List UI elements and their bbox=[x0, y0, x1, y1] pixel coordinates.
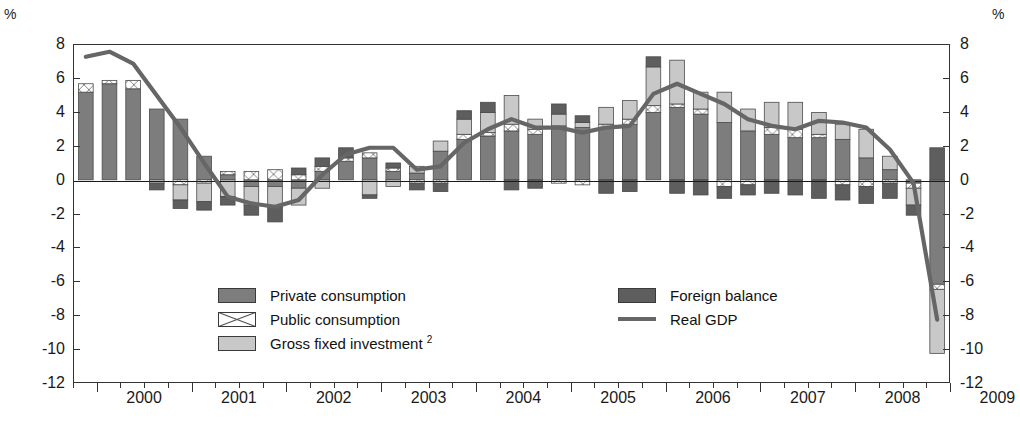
legend-label-real-gdp: Real GDP bbox=[670, 312, 738, 327]
legend-swatch-real-gdp bbox=[618, 317, 656, 321]
x-axis-year-label: 2001 bbox=[204, 390, 274, 406]
x-axis-tick-mark bbox=[666, 383, 667, 392]
y-axis-tick-mark bbox=[73, 146, 80, 147]
y-axis-tick-mark bbox=[943, 247, 950, 248]
real-gdp-path bbox=[86, 52, 937, 320]
x-axis-tick-mark bbox=[571, 383, 572, 392]
x-axis-tick-mark bbox=[381, 383, 382, 392]
x-axis-year-label: 2008 bbox=[868, 390, 938, 406]
x-axis-year-label: 2003 bbox=[394, 390, 464, 406]
x-axis-year-label: 2007 bbox=[773, 390, 843, 406]
y-axis-tick-label-right: -10 bbox=[960, 341, 1012, 357]
y-axis-tick-label-left: 0 bbox=[13, 172, 65, 188]
y-axis-tick-mark bbox=[943, 146, 950, 147]
y-axis-tick-mark bbox=[73, 247, 80, 248]
x-axis-tick-mark bbox=[429, 383, 430, 388]
legend-item-foreign-balance: Foreign balance bbox=[618, 283, 778, 307]
x-axis-year-label: 2004 bbox=[488, 390, 558, 406]
y-axis-tick-label-right: -6 bbox=[960, 273, 1012, 289]
legend-column-right: Foreign balance Real GDP bbox=[618, 283, 778, 331]
y-axis-tick-label-right: 8 bbox=[960, 36, 1012, 52]
x-axis-tick-mark bbox=[642, 383, 643, 388]
y-axis-tick-mark bbox=[943, 78, 950, 79]
legend-label-private-consumption: Private consumption bbox=[270, 288, 406, 303]
y-axis-unit-right: % bbox=[992, 6, 1004, 22]
x-axis-tick-mark bbox=[808, 383, 809, 388]
chart-figure: % % 86420-2-4-6-8-10-12 86420-2-4-6-8-10… bbox=[0, 0, 1020, 428]
legend-label-gross-fixed-investment: Gross fixed investment 2 bbox=[270, 335, 432, 351]
y-axis-tick-label-right: 0 bbox=[960, 172, 1012, 188]
x-axis-tick-mark bbox=[120, 383, 121, 388]
legend-swatch-private-consumption bbox=[218, 288, 256, 303]
y-axis-tick-mark bbox=[73, 281, 80, 282]
y-axis-tick-label-right: 6 bbox=[960, 70, 1012, 86]
x-axis-tick-mark bbox=[737, 383, 738, 388]
y-axis-tick-label-right: 2 bbox=[960, 138, 1012, 154]
x-axis-tick-mark bbox=[784, 383, 785, 388]
legend-label-public-consumption: Public consumption bbox=[270, 312, 400, 327]
x-axis-year-label: 2006 bbox=[678, 390, 748, 406]
y-axis-tick-label-left: 4 bbox=[13, 104, 65, 120]
x-axis-tick-mark bbox=[73, 383, 74, 388]
x-axis-tick-mark bbox=[192, 383, 193, 392]
y-axis-tick-label-left: -6 bbox=[13, 273, 65, 289]
x-axis-year-label: 2000 bbox=[109, 390, 179, 406]
x-axis-tick-mark bbox=[476, 383, 477, 392]
x-axis-tick-mark bbox=[215, 383, 216, 388]
y-axis-tick-label-left: -2 bbox=[13, 206, 65, 222]
y-axis-tick-label-left: -10 bbox=[13, 341, 65, 357]
x-axis-tick-mark bbox=[855, 383, 856, 392]
x-axis-year-label: 2005 bbox=[583, 390, 653, 406]
legend-label-gross-fixed-investment-text: Gross fixed investment bbox=[270, 335, 423, 352]
y-axis-tick-mark bbox=[73, 315, 80, 316]
legend-item-public-consumption: Public consumption bbox=[218, 307, 432, 331]
x-axis-tick-mark bbox=[547, 383, 548, 388]
x-axis-tick-mark bbox=[357, 383, 358, 388]
y-axis-tick-label-left: 8 bbox=[13, 36, 65, 52]
x-axis-tick-mark bbox=[713, 383, 714, 388]
y-axis-tick-mark bbox=[943, 112, 950, 113]
y-axis-tick-mark bbox=[73, 349, 80, 350]
legend-column-left: Private consumption Public consumption G… bbox=[218, 283, 432, 355]
y-axis-tick-label-right: -2 bbox=[960, 206, 1012, 222]
y-axis-tick-label-right: -8 bbox=[960, 307, 1012, 323]
x-axis-tick-mark bbox=[903, 383, 904, 388]
chart-legend: Private consumption Public consumption G… bbox=[218, 283, 858, 361]
y-axis-tick-label-left: 6 bbox=[13, 70, 65, 86]
y-axis-tick-mark bbox=[73, 78, 80, 79]
x-axis-tick-mark bbox=[500, 383, 501, 388]
legend-swatch-gross-fixed-investment bbox=[218, 336, 256, 351]
y-axis-unit-left: % bbox=[4, 6, 16, 22]
legend-label-foreign-balance: Foreign balance bbox=[670, 288, 778, 303]
x-axis-tick-mark bbox=[926, 383, 927, 388]
legend-item-gross-fixed-investment: Gross fixed investment 2 bbox=[218, 331, 432, 355]
x-axis-tick-mark bbox=[618, 383, 619, 388]
legend-footnote-marker: 2 bbox=[427, 334, 433, 345]
y-axis-tick-label-left: -8 bbox=[13, 307, 65, 323]
legend-swatch-foreign-balance bbox=[618, 288, 656, 303]
x-axis-tick-mark bbox=[239, 383, 240, 388]
y-axis-tick-mark bbox=[943, 214, 950, 215]
x-axis-tick-mark bbox=[594, 383, 595, 388]
x-axis-tick-mark bbox=[286, 383, 287, 392]
x-axis-tick-mark bbox=[263, 383, 264, 388]
x-axis-tick-mark bbox=[950, 383, 951, 392]
x-axis-tick-mark bbox=[97, 383, 98, 392]
y-axis-tick-label-right: -4 bbox=[960, 239, 1012, 255]
y-axis-tick-mark bbox=[73, 112, 80, 113]
y-axis-tick-label-right: 4 bbox=[960, 104, 1012, 120]
y-axis-tick-mark bbox=[73, 214, 80, 215]
legend-swatch-public-consumption bbox=[218, 312, 256, 327]
x-axis-tick-mark bbox=[168, 383, 169, 388]
legend-item-private-consumption: Private consumption bbox=[218, 283, 432, 307]
y-axis-tick-mark bbox=[943, 349, 950, 350]
y-axis-tick-label-left: 2 bbox=[13, 138, 65, 154]
x-axis-tick-mark bbox=[831, 383, 832, 388]
x-axis-tick-mark bbox=[310, 383, 311, 388]
legend-item-real-gdp: Real GDP bbox=[618, 307, 778, 331]
y-axis-tick-label-left: -12 bbox=[13, 375, 65, 391]
x-axis-tick-mark bbox=[405, 383, 406, 388]
y-axis-tick-label-left: -4 bbox=[13, 239, 65, 255]
x-axis-tick-mark bbox=[144, 383, 145, 388]
y-axis-tick-mark bbox=[943, 281, 950, 282]
